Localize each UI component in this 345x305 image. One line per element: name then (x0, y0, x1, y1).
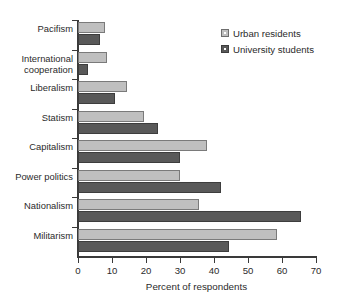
bar (78, 229, 277, 240)
bar (78, 152, 180, 163)
bar (78, 241, 229, 252)
bar (78, 52, 107, 63)
category-label: Nationalism (6, 200, 78, 212)
bar (78, 170, 180, 181)
y-axis-tick (72, 197, 78, 198)
y-axis-tick (72, 227, 78, 228)
x-axis-tick-label: 40 (199, 265, 229, 276)
bar-chart: PacifismInternational cooperationLiberal… (0, 0, 345, 305)
bar-group (78, 197, 316, 227)
bar-group (78, 79, 316, 109)
category-label: Capitalism (6, 141, 78, 153)
x-axis-tick-label: 60 (267, 265, 297, 276)
legend-swatch-icon (221, 29, 229, 37)
legend-label: University students (233, 44, 314, 55)
bar (78, 111, 144, 122)
category-label: Liberalism (6, 82, 78, 94)
bar (78, 81, 127, 92)
legend-swatch-icon (221, 45, 229, 53)
bar-group (78, 109, 316, 139)
x-axis-tick (112, 257, 113, 263)
x-axis-tick (282, 257, 283, 263)
category-label: Power politics (6, 171, 78, 183)
x-axis-tick (214, 257, 215, 263)
x-axis-tick-label: 20 (131, 265, 161, 276)
category-label: International cooperation (6, 53, 78, 76)
bar (78, 64, 88, 75)
x-axis-tick (78, 257, 79, 263)
chart-legend: Urban residentsUniversity students (221, 26, 314, 58)
x-axis-tick-label: 0 (63, 265, 93, 276)
bar (78, 22, 105, 33)
y-axis-tick (72, 79, 78, 80)
x-axis-tick (180, 257, 181, 263)
legend-item: University students (221, 42, 314, 56)
x-axis-title: Percent of respondents (0, 281, 345, 292)
x-axis-tick-label: 30 (165, 265, 195, 276)
x-axis-tick (248, 257, 249, 263)
category-label: Statism (6, 112, 78, 124)
category-label: Militarism (6, 230, 78, 242)
y-axis-tick (72, 138, 78, 139)
bar (78, 123, 158, 134)
y-axis-tick (72, 168, 78, 169)
bar (78, 199, 199, 210)
category-label: Pacifism (6, 23, 78, 35)
bar (78, 182, 221, 193)
legend-label: Urban residents (233, 28, 301, 39)
x-axis-tick-label: 50 (233, 265, 263, 276)
y-axis-tick (72, 50, 78, 51)
category-axis-labels: PacifismInternational cooperationLiberal… (0, 20, 78, 256)
bar-group (78, 138, 316, 168)
x-axis-tick-label: 10 (97, 265, 127, 276)
y-axis-tick (72, 20, 78, 21)
x-axis-tick-label: 70 (301, 265, 331, 276)
bar (78, 93, 115, 104)
bar-group (78, 227, 316, 257)
legend-item: Urban residents (221, 26, 314, 40)
bar (78, 211, 301, 222)
bar-group (78, 168, 316, 198)
bar (78, 34, 100, 45)
x-axis-tick (146, 257, 147, 263)
y-axis-tick (72, 109, 78, 110)
bar (78, 140, 207, 151)
x-axis-tick (316, 257, 317, 263)
